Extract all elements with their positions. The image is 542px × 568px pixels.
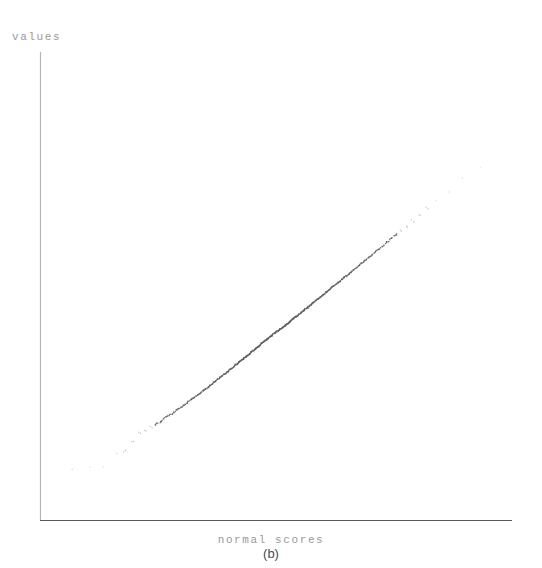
data-point [292,318,293,319]
scatter-plot-canvas [0,0,542,568]
data-point [145,430,146,431]
data-point [187,402,188,403]
data-point [385,243,386,244]
data-point [411,219,412,220]
data-point [206,387,207,388]
data-point [362,262,363,263]
data-points-group [71,167,481,470]
data-point [175,411,176,412]
data-point [369,256,370,257]
data-point [462,177,464,179]
data-point [313,301,314,302]
data-point [182,404,183,405]
data-point [157,422,158,423]
data-point [290,321,291,322]
data-point [125,450,126,451]
qq-plot-figure: values normal scores (b) [0,0,542,568]
data-point [140,433,141,434]
data-point [280,328,281,329]
data-point [400,229,401,230]
data-point [344,276,345,277]
data-point [316,299,317,300]
data-point [377,249,378,250]
data-point [123,451,124,452]
data-point [327,291,328,292]
data-point [185,404,186,405]
data-point [243,359,244,360]
data-point [427,208,428,209]
data-point [191,399,192,400]
data-point [173,411,174,412]
data-point [233,366,234,367]
figure-caption: (b) [0,546,542,561]
data-point [295,316,296,317]
data-point [268,337,269,338]
data-point [131,441,132,442]
data-point [212,383,213,384]
data-point [480,167,482,169]
data-point [380,247,381,248]
data-point [71,469,73,471]
data-point [285,326,286,327]
data-point [161,419,162,420]
data-point [406,226,407,227]
data-point [155,424,156,425]
data-point [169,414,170,415]
data-point [420,215,421,216]
data-point [276,330,277,331]
data-point [357,267,358,268]
data-point [224,373,225,374]
data-point [448,191,450,193]
data-point [301,312,302,313]
data-point [133,441,134,442]
data-point [164,417,165,418]
data-point [103,466,105,468]
data-point [201,391,202,392]
data-point [116,453,118,455]
data-point [435,200,437,202]
data-point [340,280,341,281]
data-point [342,278,343,279]
data-point [425,207,426,208]
data-point [387,241,388,242]
data-point [246,356,247,357]
data-point [149,426,150,427]
data-point [203,389,204,390]
data-point [388,241,389,242]
data-point [351,271,352,272]
data-point [138,432,139,433]
data-point [372,254,373,255]
data-point [89,467,91,469]
data-point [333,285,334,286]
data-point [383,244,384,245]
data-point [401,231,402,232]
data-point [241,359,242,360]
data-point [366,259,367,260]
data-point [167,415,168,416]
data-point [391,237,392,238]
data-point [194,397,195,398]
data-point [379,248,380,249]
data-point [165,416,166,417]
data-point [396,233,397,234]
data-point [144,430,145,431]
data-point [320,296,321,297]
data-point [279,328,280,329]
data-point [163,418,164,419]
data-point [168,415,169,416]
data-point [151,427,152,428]
data-point [286,323,287,324]
data-point [413,221,414,222]
data-point [205,389,206,390]
